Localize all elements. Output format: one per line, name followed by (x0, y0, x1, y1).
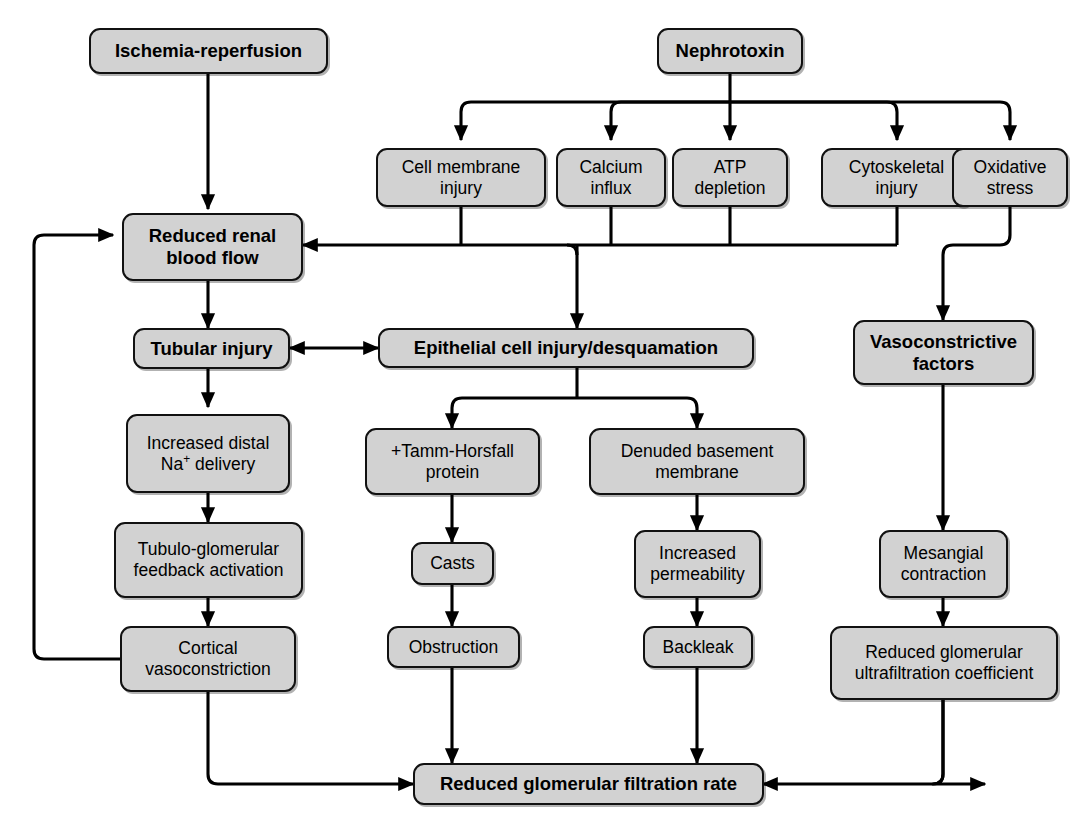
node-obstruction[interactable]: Obstruction (387, 626, 520, 668)
node-label-line2: blood flow (166, 247, 258, 269)
node-label-line2: ultrafiltration coefficient (855, 663, 1034, 684)
edge-nephrotoxin-to-cellmembrane (461, 102, 730, 140)
edge-oxidative-to-vasoconstrictive (943, 207, 1010, 320)
node-label-line2: permeability (650, 564, 744, 585)
flowchart-canvas: Ischemia-reperfusion Nephrotoxin Cell me… (0, 0, 1090, 816)
edge-epithelial-to-denuded (577, 398, 697, 428)
node-increased-distal-na-delivery[interactable]: Increased distal Na+ delivery (126, 414, 290, 493)
node-label-line2: Na+ delivery (161, 454, 256, 475)
node-oxidative-stress[interactable]: Oxidative stress (952, 148, 1068, 207)
node-label-line2: membrane (655, 462, 739, 483)
node-label: Nephrotoxin (676, 40, 785, 62)
node-label: Reduced glomerular filtration rate (440, 773, 737, 795)
node-epithelial-cell-injury[interactable]: Epithelial cell injury/desquamation (378, 328, 754, 368)
node-mesangial-contraction[interactable]: Mesangial contraction (879, 530, 1008, 598)
node-label-line2: stress (987, 178, 1034, 199)
node-increased-permeability[interactable]: Increased permeability (634, 530, 761, 598)
node-ischemia-reperfusion[interactable]: Ischemia-reperfusion (89, 28, 328, 74)
node-label-line2: injury (876, 178, 918, 199)
node-label-line2: factors (913, 353, 975, 375)
node-cortical-vasoconstriction[interactable]: Cortical vasoconstriction (120, 626, 296, 692)
node-label-line1: Increased (659, 543, 736, 564)
node-label-line1: Cortical (178, 638, 237, 659)
node-label-line2: protein (426, 462, 480, 483)
node-label: Obstruction (409, 637, 498, 658)
node-label: Casts (430, 553, 475, 574)
edge-cortical-feedback-to-rrbf (34, 235, 120, 659)
node-backleak[interactable]: Backleak (643, 626, 753, 668)
edge-nephrotoxin-to-cytoskeletal (730, 102, 897, 140)
node-reduced-gfr[interactable]: Reduced glomerular filtration rate (413, 763, 764, 805)
node-label-line2: influx (591, 178, 632, 199)
node-cytoskeletal-injury[interactable]: Cytoskeletal injury (821, 148, 972, 207)
node-nephrotoxin[interactable]: Nephrotoxin (657, 28, 803, 74)
node-calcium-influx[interactable]: Calcium influx (556, 148, 666, 207)
node-label-line1: Vasoconstrictive (870, 331, 1017, 353)
node-label-line1: Oxidative (974, 157, 1047, 178)
node-cell-membrane-injury[interactable]: Cell membrane injury (376, 148, 546, 207)
node-label: Backleak (662, 637, 733, 658)
node-label-line1: Calcium (579, 157, 642, 178)
edge-epithelial-to-tamm (452, 398, 577, 428)
edge-cortical-to-gfr (208, 692, 413, 784)
node-label-line1: Reduced glomerular (865, 642, 1023, 663)
edge-nephrotoxin-to-calcium (611, 102, 730, 140)
node-tubulo-glomerular-feedback[interactable]: Tubulo-glomerular feedback activation (114, 522, 303, 598)
edge-nephrotoxin-to-oxidative (730, 102, 1010, 140)
node-label: Tubular injury (151, 338, 273, 360)
node-label-line2: feedback activation (134, 560, 284, 581)
node-reduced-renal-blood-flow[interactable]: Reduced renal blood flow (122, 213, 303, 281)
edge-ultrafiltration-to-gfr (933, 700, 985, 784)
node-label-line1: Denuded basement (621, 441, 774, 462)
node-label-line2: vasoconstriction (145, 659, 270, 680)
edge-bus-corner-epithelial (567, 245, 577, 255)
edge-ultrafiltration-to-gfr-right (763, 700, 943, 784)
na-text: Na (161, 454, 183, 474)
node-label: Ischemia-reperfusion (115, 40, 302, 62)
node-denuded-basement-membrane[interactable]: Denuded basement membrane (589, 428, 805, 495)
node-tubular-injury[interactable]: Tubular injury (133, 328, 290, 369)
node-label-line1: +Tamm-Horsfall (391, 441, 514, 462)
node-label-line1: Cell membrane (402, 157, 521, 178)
node-label-line1: Increased distal (147, 433, 270, 454)
node-label-line2: injury (440, 178, 482, 199)
node-label-line1: Mesangial (904, 543, 984, 564)
node-atp-depletion[interactable]: ATP depletion (672, 148, 788, 207)
node-vasoconstrictive-factors[interactable]: Vasoconstrictive factors (853, 320, 1034, 385)
node-label-line2: depletion (694, 178, 765, 199)
node-label-line1: Reduced renal (149, 225, 277, 247)
delivery-text: delivery (190, 454, 255, 474)
node-label: Epithelial cell injury/desquamation (414, 337, 718, 359)
node-label-line1: Cytoskeletal (849, 157, 944, 178)
node-tamm-horsfall-protein[interactable]: +Tamm-Horsfall protein (365, 428, 540, 495)
node-label-line1: ATP (714, 157, 747, 178)
node-casts[interactable]: Casts (411, 542, 494, 585)
node-label-line2: contraction (901, 564, 987, 585)
node-reduced-ultrafiltration-coefficient[interactable]: Reduced glomerular ultrafiltration coeff… (830, 626, 1058, 700)
node-label-line1: Tubulo-glomerular (138, 539, 279, 560)
